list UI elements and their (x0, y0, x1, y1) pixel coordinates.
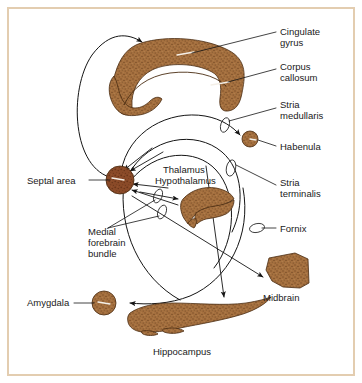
label-fornix: Fornix (280, 223, 307, 234)
label-cingulate-gyrus-line2: gyrus (280, 37, 303, 48)
diagram-canvas: Cingulate gyrus Corpus callosum Stria me… (0, 0, 362, 383)
mfb-arrow-to-thalamus (140, 192, 178, 199)
label-habenula: Habenula (280, 141, 321, 152)
leader-stria-medullaris (229, 108, 276, 121)
limbic-system-diagram: Cingulate gyrus Corpus callosum Stria me… (0, 0, 362, 383)
stria-medullaris-marker (219, 117, 232, 134)
label-stria-terminalis-line1: Stria (280, 177, 300, 188)
habenula-structure (242, 131, 258, 147)
leader-mfb-upper (108, 200, 155, 228)
amygdala-structure (92, 291, 116, 315)
hippocampal-outflow-arc (123, 182, 180, 300)
label-amygdala: Amygdala (27, 297, 70, 308)
leader-stria-terminalis (236, 165, 276, 185)
midbrain-structure (266, 253, 309, 288)
label-mfb-line1: Medial (88, 226, 116, 237)
leader-habenula (258, 140, 276, 146)
label-stria-medullaris-line1: Stria (280, 99, 300, 110)
label-hypothalamus: Hypothalamus (155, 175, 216, 186)
label-mfb-line2: forebrain (88, 237, 126, 248)
label-mfb-line3: bundle (88, 248, 117, 259)
thalamus-hypothalamus-structure (181, 187, 234, 228)
label-septal-area: Septal area (27, 175, 76, 186)
mfb-marker-upper (152, 188, 165, 204)
label-thalamus: Thalamus (163, 164, 205, 175)
label-corpus-callosum-line1: Corpus (280, 61, 311, 72)
label-stria-terminalis-line2: terminalis (280, 188, 321, 199)
label-cingulate-gyrus-line1: Cingulate (280, 26, 320, 37)
label-stria-medullaris-line2: medullaris (280, 110, 324, 121)
label-midbrain: Midbrain (263, 292, 299, 303)
cingulate-gyrus-structure (109, 39, 244, 116)
hippocampus-structure (128, 297, 271, 336)
label-hippocampus: Hippocampus (153, 346, 211, 357)
label-corpus-callosum-line2: callosum (280, 72, 318, 83)
